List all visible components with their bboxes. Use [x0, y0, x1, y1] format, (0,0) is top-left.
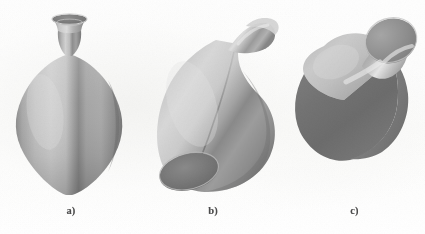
panel-c-caption: c)	[284, 204, 425, 217]
panel-b-caption: b)	[142, 204, 284, 217]
vase-a-neck	[58, 30, 81, 56]
figure-panel-b: b)	[142, 0, 284, 234]
vase-rotated-faceted-illustration	[284, 0, 425, 204]
figure-panel-c: c)	[284, 0, 425, 234]
vase-bent-illustration	[142, 0, 284, 204]
figure-container: a)	[0, 0, 425, 234]
vase-a-seam	[69, 58, 70, 194]
panel-a-caption: a)	[0, 204, 142, 217]
figure-panel-a: a)	[0, 0, 142, 234]
vase-upright-illustration	[0, 0, 142, 204]
